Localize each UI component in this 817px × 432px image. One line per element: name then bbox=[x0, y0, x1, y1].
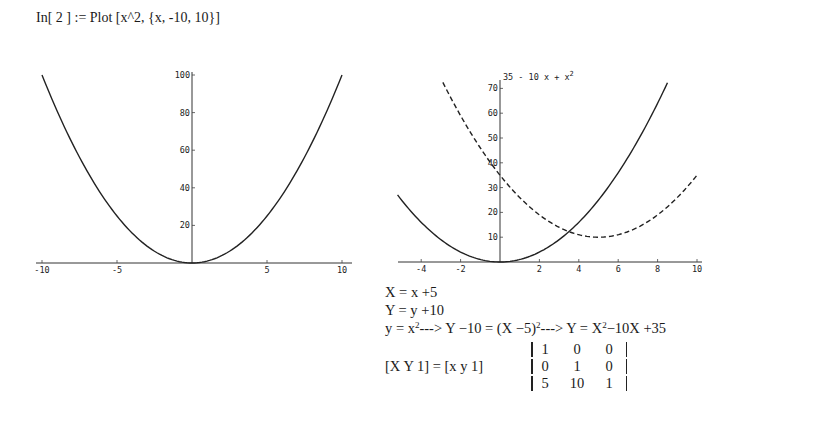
right-shifted-parabola-curve bbox=[443, 82, 697, 237]
left-x-ticks: -10-5510 bbox=[34, 260, 347, 275]
y-tick-label: 100 bbox=[175, 70, 190, 80]
x-tick-label: -2 bbox=[455, 264, 465, 274]
x-tick-label: 5 bbox=[264, 265, 269, 275]
y-tick-label: 60 bbox=[180, 145, 190, 155]
curve-label: 35 - 10 x + x2 bbox=[503, 70, 574, 82]
y-tick-label: 30 bbox=[488, 183, 498, 193]
x-tick-label: -5 bbox=[112, 265, 122, 275]
y-tick-label: 10 bbox=[488, 232, 498, 242]
equation-matrix-lhs: [X Y 1] = [x y 1] bbox=[385, 358, 483, 375]
x-tick-label: 6 bbox=[616, 264, 621, 274]
x-tick-label: 10 bbox=[337, 265, 347, 275]
equation-transform: y = x2---> Y −10 = (X −5)2---> Y = X2−10… bbox=[385, 320, 666, 337]
x-tick-label: -4 bbox=[416, 264, 426, 274]
matrix-row: 5 10 1 bbox=[531, 375, 631, 392]
x-tick-label: 10 bbox=[692, 264, 702, 274]
right-x-ticks: -4-2246810 bbox=[416, 259, 702, 274]
left-plot: -10-5510 20406080100 bbox=[34, 70, 352, 275]
y-tick-label: 80 bbox=[180, 108, 190, 118]
x-tick-label: -10 bbox=[34, 265, 49, 275]
x-tick-label: 4 bbox=[576, 264, 581, 274]
y-tick-label: 50 bbox=[488, 133, 498, 143]
matrix-row: 0 1 0 bbox=[531, 358, 631, 375]
equation-x: X = x +5 bbox=[385, 284, 437, 301]
equation-y: Y = y +10 bbox=[385, 302, 444, 319]
x-tick-label: 8 bbox=[655, 264, 660, 274]
y-tick-label: 40 bbox=[180, 183, 190, 193]
y-tick-label: 60 bbox=[488, 108, 498, 118]
matrix-row: 1 0 0 bbox=[531, 341, 631, 358]
y-tick-label: 70 bbox=[488, 83, 498, 93]
y-tick-label: 20 bbox=[180, 220, 190, 230]
x-tick-label: 2 bbox=[537, 264, 542, 274]
y-tick-label: 20 bbox=[488, 207, 498, 217]
right-parabola-curve bbox=[398, 83, 668, 262]
right-y-ticks: 10203040506070 bbox=[488, 83, 503, 242]
right-plot: -4-2246810 10203040506070 35 - 10 x + x2 bbox=[398, 70, 703, 274]
